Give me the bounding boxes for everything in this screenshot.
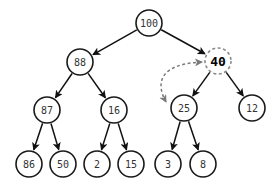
tree-edges bbox=[34, 30, 243, 150]
node-40: 40 bbox=[205, 48, 231, 74]
node-label: 88 bbox=[74, 57, 86, 68]
node-label: 8 bbox=[200, 159, 206, 170]
node-label: 16 bbox=[108, 105, 120, 116]
heap-diagram: 100884087162512865021538 bbox=[0, 0, 280, 191]
node-25: 25 bbox=[171, 95, 197, 121]
edge-87-to-50 bbox=[51, 123, 59, 149]
tree-nodes: 100884087162512865021538 bbox=[16, 10, 265, 177]
node-label: 40 bbox=[210, 54, 226, 69]
node-100: 100 bbox=[136, 10, 162, 36]
node-label: 86 bbox=[23, 159, 35, 170]
edge-88-to-16 bbox=[88, 73, 105, 97]
edge-40-to-25 bbox=[193, 72, 210, 96]
node-12: 12 bbox=[239, 95, 265, 121]
edge-100-to-88 bbox=[93, 30, 137, 55]
node-label: 50 bbox=[57, 159, 69, 170]
edge-100-to-40 bbox=[161, 30, 205, 54]
node-label: 100 bbox=[140, 18, 158, 29]
edge-25-to-3 bbox=[172, 121, 180, 149]
node-8: 8 bbox=[190, 151, 216, 177]
edge-25-to-8 bbox=[188, 121, 198, 150]
node-15: 15 bbox=[118, 151, 144, 177]
node-16: 16 bbox=[101, 97, 127, 123]
node-86: 86 bbox=[16, 151, 42, 177]
edge-40-to-12 bbox=[226, 72, 243, 96]
node-label: 3 bbox=[165, 159, 171, 170]
node-label: 15 bbox=[125, 159, 137, 170]
edge-87-to-86 bbox=[34, 123, 43, 149]
node-label: 12 bbox=[246, 103, 258, 114]
edge-88-to-87 bbox=[55, 74, 72, 98]
node-2: 2 bbox=[84, 151, 110, 177]
node-label: 87 bbox=[41, 105, 53, 116]
node-label: 25 bbox=[178, 103, 190, 114]
node-label: 2 bbox=[94, 159, 100, 170]
node-88: 88 bbox=[67, 49, 93, 75]
node-3: 3 bbox=[155, 151, 181, 177]
edge-16-to-15 bbox=[118, 123, 126, 149]
node-50: 50 bbox=[50, 151, 76, 177]
edge-16-to-2 bbox=[102, 123, 110, 149]
node-87: 87 bbox=[34, 97, 60, 123]
